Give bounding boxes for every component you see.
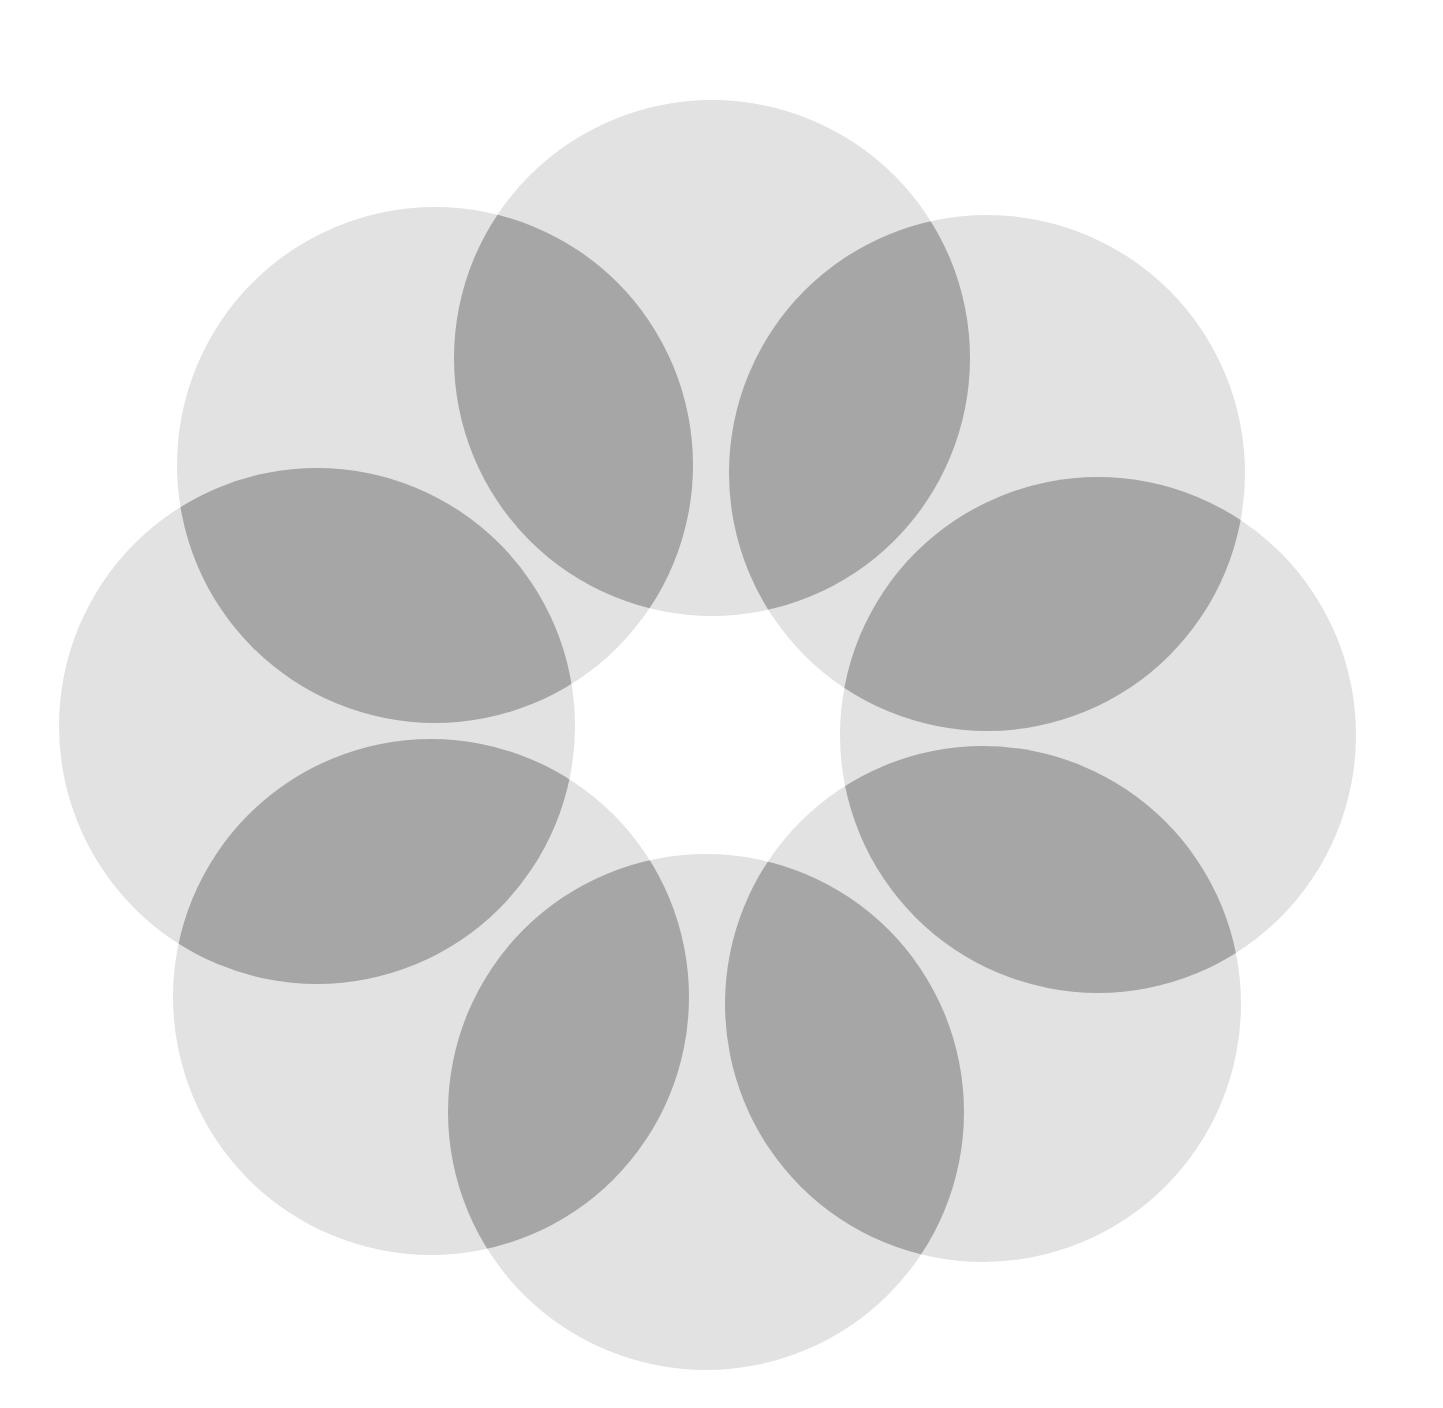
circle-layer (59, 100, 1356, 1370)
rosette-circles (0, 0, 1443, 1408)
